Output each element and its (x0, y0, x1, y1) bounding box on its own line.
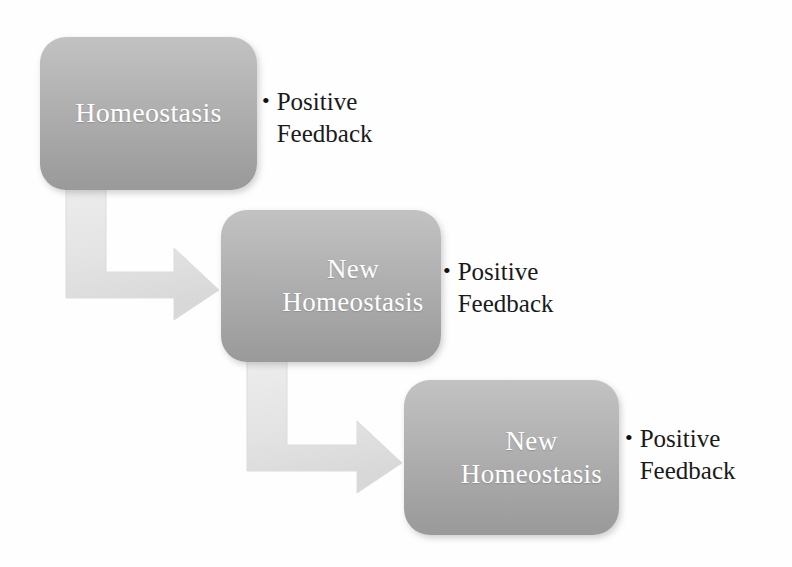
feedback-label-3: • Positive Feedback (625, 423, 736, 487)
diagram-canvas: Homeostasis New Homeostasis New Homeosta… (0, 0, 792, 567)
node-box-new-homeostasis-2[interactable]: New Homeostasis (404, 380, 619, 535)
feedback-label-2: • Positive Feedback (443, 256, 554, 320)
bullet-icon: • (262, 86, 270, 116)
bullet-icon: • (443, 256, 451, 286)
node-box-homeostasis[interactable]: Homeostasis (40, 37, 257, 190)
node-box-new-homeostasis-1[interactable]: New Homeostasis (221, 210, 441, 362)
feedback-text-3: Positive Feedback (640, 423, 736, 487)
node-label-2: New Homeostasis (272, 253, 433, 319)
feedback-text-1: Positive Feedback (277, 86, 373, 150)
bullet-icon: • (625, 423, 633, 453)
feedback-text-2: Positive Feedback (458, 256, 554, 320)
connector-arrow-1 (62, 186, 222, 322)
feedback-label-1: • Positive Feedback (262, 86, 373, 150)
node-label-3: New Homeostasis (451, 425, 612, 491)
connector-arrow-2 (243, 359, 405, 495)
node-label-1: Homeostasis (65, 96, 231, 130)
